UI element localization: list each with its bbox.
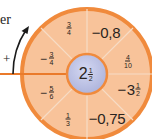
segment-right-lower: − 3 1 2 — [117, 81, 140, 98]
segment-bottom-right: −0,75 — [89, 110, 125, 127]
center-value: 2 1 2 — [79, 65, 93, 83]
decimal-value: −0,75 — [89, 110, 125, 127]
plus-sign-label: + — [3, 51, 10, 67]
fraction: 1 2 — [136, 82, 141, 97]
segment-top-left: 3 4 — [67, 21, 72, 36]
segment-left-lower: − 5 6 — [40, 85, 54, 100]
fraction: 3 4 — [67, 21, 72, 36]
fraction: 1 3 — [66, 112, 71, 127]
number-wheel-diagram: er + 3 4 −0,8 4 10 − 3 1 2 −0,75 1 3 — [0, 0, 152, 139]
fraction: 4 10 — [124, 54, 132, 69]
segment-left-upper: − 3 4 — [40, 51, 54, 66]
fraction: 5 6 — [49, 85, 54, 100]
segment-right-upper: 4 10 — [124, 54, 132, 69]
fraction: 3 4 — [49, 51, 54, 66]
wheel-graphic — [0, 0, 152, 139]
decimal-value: −0,8 — [92, 24, 120, 41]
segment-bottom-left: 1 3 — [66, 112, 71, 127]
segment-top-right: −0,8 — [92, 24, 120, 41]
fraction: 1 2 — [88, 67, 93, 82]
arrow-head-icon — [22, 26, 30, 34]
word-fragment-label: er — [0, 12, 11, 28]
